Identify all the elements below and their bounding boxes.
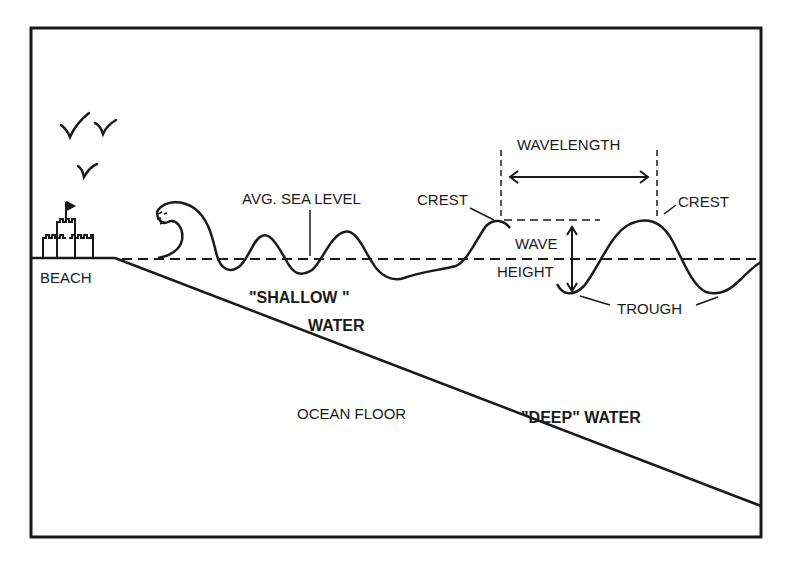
label-crest-left: CREST <box>417 191 468 208</box>
leader-lines <box>310 205 718 305</box>
wave-profile <box>157 202 510 279</box>
label-avg-sea-level: AVG. SEA LEVEL <box>242 190 361 207</box>
diagram-frame <box>31 28 761 537</box>
wave-anatomy-diagram: BEACH AVG. SEA LEVEL CREST CREST WAVELEN… <box>0 0 789 565</box>
bird-icon <box>78 164 97 177</box>
wavelength-arrow <box>510 171 648 183</box>
label-shallow: "SHALLOW " <box>249 289 350 306</box>
label-deep-water: "DEEP" WATER <box>521 409 641 426</box>
label-shallow-water: WATER <box>308 317 365 334</box>
wave-profile-right <box>557 221 761 294</box>
sandcastle-icon <box>43 202 93 257</box>
bird-icon <box>95 120 116 134</box>
label-trough: TROUGH <box>617 300 682 317</box>
label-height: HEIGHT <box>497 263 554 280</box>
bird-icon <box>61 113 89 137</box>
label-wave: WAVE <box>515 235 558 252</box>
label-beach: BEACH <box>40 269 92 286</box>
ocean-floor-line <box>115 258 761 506</box>
label-crest-right: CREST <box>678 193 729 210</box>
label-wavelength: WAVELENGTH <box>517 136 620 153</box>
label-ocean-floor: OCEAN FLOOR <box>297 405 406 422</box>
